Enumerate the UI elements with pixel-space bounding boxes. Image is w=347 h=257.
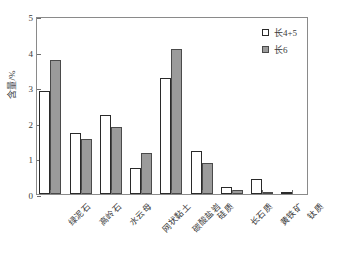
legend-label: 长6 bbox=[274, 43, 288, 56]
bar-group bbox=[128, 18, 158, 194]
y-axis-tick-mark bbox=[37, 196, 41, 197]
y-axis-tick-label: 5 bbox=[17, 14, 33, 23]
legend-swatch-icon bbox=[262, 46, 269, 53]
bar-group bbox=[188, 18, 218, 194]
x-axis-category-label: 黄铁矿 bbox=[277, 200, 305, 228]
bar-series-2 bbox=[81, 139, 92, 194]
bar-series-1 bbox=[130, 168, 141, 194]
y-axis-tick-label: 4 bbox=[17, 49, 33, 58]
x-axis-category-label: 高岭石 bbox=[96, 200, 124, 228]
x-axis-category-label: 水云母 bbox=[126, 200, 154, 228]
bar-series-2 bbox=[202, 163, 213, 194]
bar-group bbox=[67, 18, 97, 194]
x-axis-tick-mark bbox=[171, 190, 172, 194]
x-axis-tick-mark bbox=[50, 190, 51, 194]
legend-label: 长4+5 bbox=[274, 26, 297, 39]
bar-series-1 bbox=[160, 78, 171, 194]
bar-series-1 bbox=[39, 91, 50, 194]
bar-series-2 bbox=[111, 127, 122, 194]
bar-group bbox=[37, 18, 67, 194]
bar-series-2 bbox=[50, 60, 61, 194]
bar-series-1 bbox=[191, 151, 202, 194]
bar-series-1 bbox=[70, 133, 81, 194]
x-axis-tick-mark bbox=[202, 190, 203, 194]
bar-series-2 bbox=[262, 192, 273, 194]
chart-figure: 含量/% 012345 长4+5长6 绿泥石高岭石水云母网状黏土碳酸盐岩硅质长石… bbox=[0, 0, 347, 257]
x-axis-tick-mark bbox=[262, 190, 263, 194]
bar-series-2 bbox=[232, 190, 243, 194]
chart-legend: 长4+5长6 bbox=[262, 26, 297, 60]
x-axis-category-label: 网状黏土 bbox=[159, 200, 193, 234]
bar-group bbox=[97, 18, 127, 194]
x-axis-category-label: 绿泥石 bbox=[65, 200, 93, 228]
x-axis-tick-mark bbox=[141, 190, 142, 194]
y-axis-tick-label: 0 bbox=[17, 192, 33, 201]
x-axis-category-label: 长石质 bbox=[247, 200, 275, 228]
x-axis-tick-mark bbox=[81, 190, 82, 194]
y-axis-tick-label: 1 bbox=[17, 156, 33, 165]
x-axis-tick-mark bbox=[232, 190, 233, 194]
y-axis-tick-label: 3 bbox=[17, 85, 33, 94]
y-axis-tick-label: 2 bbox=[17, 120, 33, 129]
bar-series-2 bbox=[141, 153, 152, 194]
legend-swatch-icon bbox=[262, 29, 269, 36]
bar-series-1 bbox=[100, 115, 111, 194]
legend-item: 长6 bbox=[262, 43, 297, 56]
x-axis-tick-mark bbox=[292, 190, 293, 194]
y-axis-title: 含量/% bbox=[5, 50, 18, 120]
bar-series-2 bbox=[171, 49, 182, 194]
bar-series-1 bbox=[221, 187, 232, 194]
legend-item: 长4+5 bbox=[262, 26, 297, 39]
bar-series-1 bbox=[251, 179, 262, 194]
bar-group bbox=[218, 18, 248, 194]
bar-group bbox=[158, 18, 188, 194]
plot-area: 012345 长4+5长6 bbox=[36, 17, 308, 195]
x-axis-category-label: 钛质 bbox=[305, 200, 326, 221]
bar-series-1 bbox=[281, 192, 292, 194]
x-axis-tick-mark bbox=[111, 190, 112, 194]
